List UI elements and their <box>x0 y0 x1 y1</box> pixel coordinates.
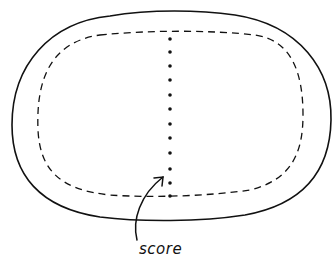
tablet-inner-dashed-outline <box>38 31 303 196</box>
tablet-outer-outline <box>12 11 331 221</box>
score-line <box>168 37 172 198</box>
arrow-icon <box>136 177 163 240</box>
tablet-diagram <box>0 0 333 265</box>
score-label: score <box>139 240 182 258</box>
